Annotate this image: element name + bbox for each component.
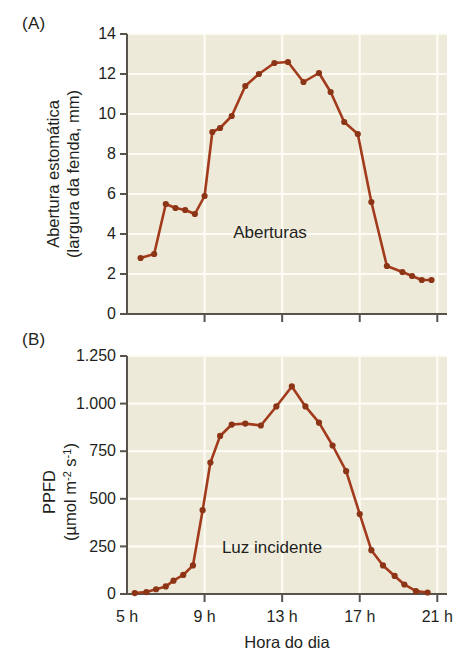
data-point	[341, 119, 347, 125]
y-tick-label: 750	[89, 442, 116, 459]
data-point	[428, 277, 434, 283]
y-tick-label: 500	[89, 490, 116, 507]
data-point	[413, 588, 419, 594]
y-tick-label: 250	[89, 538, 116, 555]
data-point	[419, 277, 425, 283]
data-point	[256, 71, 262, 77]
data-point	[368, 547, 374, 553]
x-tick-label: 17 h	[344, 608, 375, 625]
data-point	[273, 403, 279, 409]
y-tick-label: 10	[98, 105, 116, 122]
y-tick-label: 2	[107, 265, 116, 282]
data-point	[190, 562, 196, 568]
data-point	[343, 468, 349, 474]
data-point	[380, 562, 386, 568]
data-point	[392, 573, 398, 579]
y-tick-label: 1.000	[76, 395, 116, 412]
y-tick-label: 14	[98, 25, 116, 42]
data-point	[242, 83, 248, 89]
y-tick-label: 4	[107, 225, 116, 242]
data-point	[355, 131, 361, 137]
panel-b: 02505007501.0001.250 5 h9 h13 h17 h21 h …	[40, 347, 453, 651]
data-point	[180, 572, 186, 578]
panel-a-ylabel-line1: Abertura estomática	[44, 99, 62, 247]
data-point	[384, 263, 390, 269]
data-point	[357, 511, 363, 517]
x-tick-label: 13 h	[267, 608, 298, 625]
data-point	[401, 581, 407, 587]
data-point	[258, 422, 264, 428]
data-point	[172, 205, 178, 211]
y-tick-label: 12	[98, 65, 116, 82]
data-point	[207, 460, 213, 466]
x-tick-label: 21 h	[422, 608, 453, 625]
data-point	[316, 420, 322, 426]
data-point	[229, 113, 235, 119]
data-point	[192, 211, 198, 217]
y-tick-label: 1.250	[76, 347, 116, 364]
panel-b-ylabel-line1: PPFD	[40, 470, 58, 514]
data-point	[163, 201, 169, 207]
y-tick-label: 0	[107, 305, 116, 322]
data-point	[151, 251, 157, 257]
data-point	[163, 583, 169, 589]
data-point	[170, 578, 176, 584]
charts-svg: 02468101214 Aberturas Abertura estomátic…	[0, 0, 458, 660]
data-point	[132, 590, 138, 596]
y-tick-label: 6	[107, 185, 116, 202]
x-tick-label: 5 h	[116, 608, 138, 625]
data-point	[201, 193, 207, 199]
data-point	[143, 589, 149, 595]
data-point	[137, 255, 143, 261]
data-point	[409, 273, 415, 279]
data-point	[153, 586, 159, 592]
data-point	[399, 269, 405, 275]
data-point	[217, 433, 223, 439]
data-point	[329, 442, 335, 448]
data-point	[209, 129, 215, 135]
data-point	[285, 59, 291, 65]
data-point	[368, 199, 374, 205]
panel-b-ylabel-line2: (µmol m-2 s-1)	[61, 443, 79, 541]
data-point	[425, 589, 431, 595]
panel-a-ylabel-line2: (largura da fenda, mm)	[64, 90, 82, 258]
panel-b-y-tick-labels: 02505007501.0001.250	[76, 347, 116, 602]
data-point	[302, 403, 308, 409]
x-tick-label: 9 h	[193, 608, 215, 625]
data-point	[289, 383, 295, 389]
data-point	[229, 421, 235, 427]
panel-b-annotation: Luz incidente	[222, 538, 322, 557]
data-point	[300, 79, 306, 85]
panel-a-annotation: Aberturas	[233, 223, 307, 242]
y-tick-label: 8	[107, 145, 116, 162]
data-point	[217, 125, 223, 131]
data-point	[182, 207, 188, 213]
data-point	[242, 420, 248, 426]
data-point	[271, 60, 277, 66]
panel-a-y-tick-labels: 02468101214	[98, 25, 116, 322]
data-point	[316, 70, 322, 76]
panel-a: 02468101214 Aberturas Abertura estomátic…	[44, 25, 447, 322]
panel-b-x-tick-labels: 5 h9 h13 h17 h21 h	[116, 608, 453, 625]
x-axis-title: Hora do dia	[244, 633, 330, 651]
data-point	[200, 507, 206, 513]
data-point	[328, 89, 334, 95]
y-tick-label: 0	[107, 585, 116, 602]
figure-container: (A) (B) 02468101214 Aberturas Abertura e…	[0, 0, 458, 660]
